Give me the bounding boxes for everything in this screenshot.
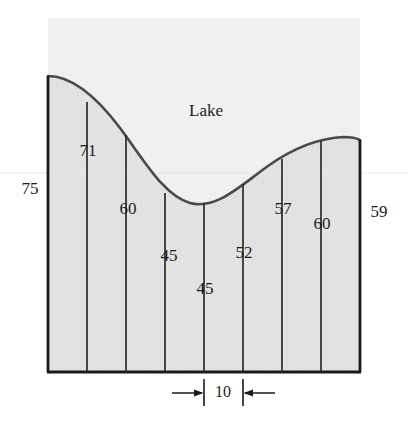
depth-label-3: 45 <box>161 246 178 265</box>
figure-canvas: Lake 75 59 71 60 45 45 52 57 60 | --> 10 <box>0 0 408 422</box>
depth-label-4: 45 <box>197 279 214 298</box>
depth-label-6: 57 <box>275 199 293 218</box>
depth-label-2: 60 <box>120 199 137 218</box>
depth-label-5: 52 <box>236 243 253 262</box>
lake-cross-section-figure: Lake 75 59 71 60 45 45 52 57 60 | --> 10 <box>0 0 408 422</box>
left-edge-depth-label: 75 <box>22 179 39 198</box>
lake-region-label: Lake <box>189 101 223 120</box>
depth-label-1: 71 <box>80 141 97 160</box>
dimension-arrowhead-right <box>244 390 254 397</box>
spacing-dimension-group: 10 <box>172 379 275 406</box>
dimension-value-label: 10 <box>215 383 231 400</box>
depth-label-7: 60 <box>314 214 331 233</box>
dimension-arrowhead-left <box>194 390 204 397</box>
right-edge-depth-label: 59 <box>371 202 388 221</box>
